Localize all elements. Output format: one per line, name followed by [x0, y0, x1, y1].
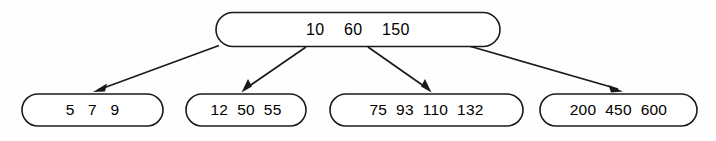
- leaf-node-3[interactable]: 75 93 110 132: [330, 94, 523, 126]
- leaf-node-2-keys: 12 50 55: [211, 101, 282, 118]
- leaf-node-4[interactable]: 200 450 600: [540, 94, 697, 126]
- leaf-node-1-keys: 5 7 9: [66, 101, 120, 118]
- edge-root-to-leaf-3-arrowhead: [421, 79, 432, 93]
- edge-root-to-leaf-4: [469, 46, 623, 93]
- edge-root-to-leaf-3: [368, 47, 432, 93]
- edge-group: [93, 46, 623, 93]
- edge-root-to-leaf-3-line: [368, 47, 428, 89]
- leaf-node-4-keys: 200 450 600: [570, 101, 668, 118]
- edge-root-to-leaf-2-line: [245, 47, 306, 89]
- edge-root-to-leaf-1: [93, 46, 219, 93]
- edge-root-to-leaf-4-arrowhead: [609, 85, 624, 93]
- root-node-keys: 10 60 150: [306, 21, 410, 38]
- edge-root-to-leaf-2: [242, 47, 307, 93]
- btree-canvas: 10 60 150 5 7 9 12 50 55 75 93 110 132 2…: [0, 0, 716, 141]
- root-node[interactable]: 10 60 150: [216, 13, 500, 47]
- edge-root-to-leaf-2-arrowhead: [242, 79, 253, 93]
- leaf-node-2[interactable]: 12 50 55: [186, 94, 306, 126]
- leaf-node-1[interactable]: 5 7 9: [22, 94, 163, 126]
- btree-diagram: 10 60 150 5 7 9 12 50 55 75 93 110 132 2…: [0, 0, 716, 141]
- edge-root-to-leaf-1-line: [98, 46, 219, 91]
- leaf-node-3-keys: 75 93 110 132: [369, 101, 483, 118]
- edge-root-to-leaf-4-line: [469, 46, 618, 89]
- edge-root-to-leaf-1-arrowhead: [93, 84, 107, 93]
